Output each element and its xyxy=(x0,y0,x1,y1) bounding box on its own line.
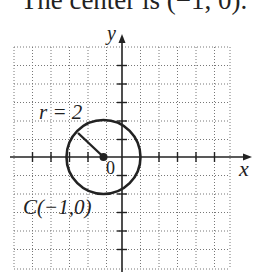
y-axis-label: y xyxy=(105,22,116,45)
radius-label: r = 2 xyxy=(39,100,83,124)
circle-diagram: y x 0 r = 2 C(−1,0) xyxy=(0,0,268,276)
radius-segment xyxy=(78,133,104,157)
origin-label: 0 xyxy=(106,158,115,178)
center-label: C(−1,0) xyxy=(23,195,91,219)
y-axis-arrow-icon xyxy=(119,34,126,43)
x-axis-label: x xyxy=(238,156,249,181)
axes xyxy=(10,38,248,272)
